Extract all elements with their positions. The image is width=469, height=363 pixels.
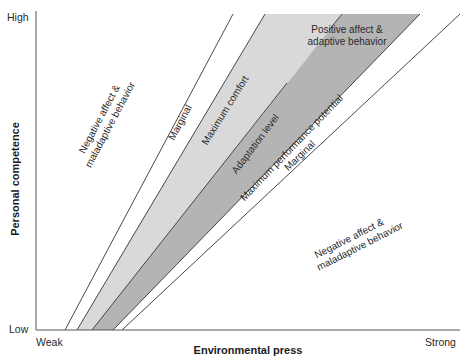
light-band-maximum-comfort: [77, 14, 342, 330]
adaptation-level-line-lower: [92, 83, 287, 330]
ecological-model-diagram: High Low Weak Strong Environmental press…: [0, 0, 469, 363]
label-positive-line2: adaptive behavior: [308, 36, 388, 47]
x-tick-weak: Weak: [36, 336, 63, 348]
label-positive-line1: Positive affect &: [311, 24, 383, 35]
x-tick-strong: Strong: [425, 336, 456, 348]
x-axis-title: Environmental press: [194, 344, 303, 356]
label-marginal-left: Marginal: [166, 103, 194, 142]
y-tick-low: Low: [9, 323, 29, 335]
y-axis-title: Personal competence: [9, 122, 21, 236]
y-tick-high: High: [7, 11, 29, 23]
